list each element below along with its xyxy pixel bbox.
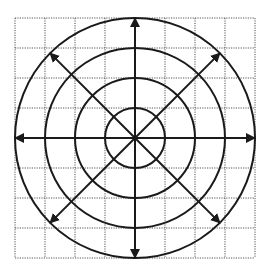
arrow-up-right-icon xyxy=(135,53,220,138)
arrow-down-right-icon xyxy=(135,138,220,223)
direction-arrows xyxy=(15,18,255,258)
arrow-up-left-icon xyxy=(50,53,135,138)
arrow-down-left-icon xyxy=(50,138,135,223)
polar-vector-diagram xyxy=(0,0,268,273)
